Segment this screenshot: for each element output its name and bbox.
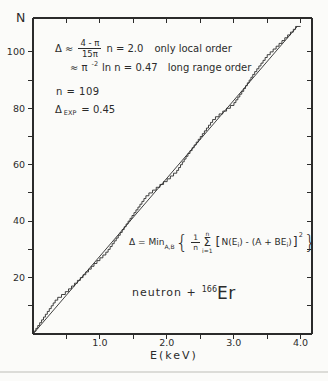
reaction-prefix: neutron + (132, 286, 197, 303)
fraction: 4 - π 15π (78, 38, 101, 59)
index-i-2: i (286, 241, 288, 249)
pi-exponent: -2 (92, 60, 98, 68)
bracket-open: [ (216, 236, 221, 249)
mass-number-superscript: 166 (202, 285, 217, 294)
delta-exp-lead: Δ (55, 104, 62, 115)
annotation-min-formula: Δ = Min A,B { 1 n n Σ i=1 [ N(E i ) - (A… (129, 231, 318, 254)
one-over-n-fraction: 1 n (191, 233, 200, 252)
local-order-note: only local order (154, 43, 231, 54)
annotation-local-order: Δ ≈ 4 - π 15π n = 2.0 only local order (55, 38, 232, 59)
formula-term-3: ) (288, 237, 292, 247)
annotation-delta-exp: Δ EXP = 0.45 (55, 104, 115, 115)
squared-exponent: 2 (299, 231, 303, 239)
delta-exp-value: = 0.45 (81, 104, 115, 115)
y-tick-label: 100 (7, 46, 25, 57)
brace-open: { (176, 232, 189, 252)
element-symbol: Er (217, 283, 236, 303)
scan-artifact-line (0, 371, 328, 373)
local-order-equation: n = 2.0 (106, 43, 143, 54)
index-i-1: i (237, 241, 239, 249)
figure: 1.02.03.04.020406080100 N E(keV) Δ ≈ 4 -… (0, 0, 328, 381)
one-over-n-denominator: n (193, 243, 198, 252)
one-over-n-numerator: 1 (191, 233, 200, 243)
fraction-denominator: 15π (82, 49, 98, 59)
local-order-lead: Δ ≈ (55, 43, 73, 54)
long-range-lead: ≈ π (70, 62, 88, 73)
long-range-equation: ln n = 0.47 (102, 62, 158, 73)
delta-exp-subscript: EXP (64, 109, 76, 117)
annotation-long-range: ≈ π -2 ln n = 0.47 long range order (70, 62, 251, 73)
y-axis-title: N (16, 10, 25, 25)
brace-close: } (304, 232, 317, 252)
long-range-note: long range order (168, 62, 252, 73)
formula-term-2: ) - (A + BE (239, 237, 286, 247)
y-tick-label: 60 (13, 159, 25, 170)
bracket-close: ] (293, 236, 298, 249)
x-tick-label: 3.0 (226, 337, 241, 348)
y-tick-label: 40 (13, 215, 25, 226)
min-subscript: A,B (164, 243, 174, 250)
formula-term-1: N(E (221, 237, 237, 247)
summation-lower-limit: i=1 (202, 248, 213, 254)
annotation-n-value: n = 109 (56, 86, 100, 97)
x-tick-label: 2.0 (159, 337, 174, 348)
x-tick-label: 4.0 (293, 337, 308, 348)
summation: n Σ i=1 (202, 231, 213, 254)
reaction-label: neutron + 166 Er (132, 283, 236, 303)
x-axis-title: E(keV) (128, 349, 220, 362)
min-formula-lhs: Δ = Min (129, 237, 164, 247)
x-tick-label: 1.0 (92, 337, 107, 348)
y-tick-label: 20 (13, 272, 25, 283)
y-tick-label: 80 (13, 103, 25, 114)
fraction-numerator: 4 - π (78, 38, 101, 49)
